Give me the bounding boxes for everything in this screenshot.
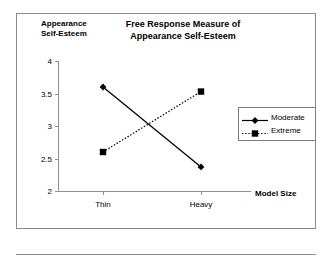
legend-item-extreme[interactable]: Extreme [241, 124, 312, 137]
series-plot [58, 61, 251, 192]
plot-area: 22.533.54 ThinHeavy [58, 61, 251, 191]
legend-item-moderate[interactable]: Moderate [241, 111, 312, 124]
x-tick-label: Thin [95, 200, 111, 209]
square-marker [252, 130, 258, 136]
x-axis-title: Model Size [255, 189, 296, 198]
y-tick-label: 3 [48, 122, 52, 131]
square-marker [198, 88, 204, 94]
diamond-marker [252, 117, 259, 124]
x-tick-label: Heavy [190, 200, 213, 209]
legend-label: Moderate [269, 113, 305, 122]
chart-frame: Appearance Self-Esteem Free Response Mea… [16, 13, 316, 229]
y-tick-label: 2.5 [41, 154, 52, 163]
y-tick-label: 4 [48, 57, 52, 66]
y-axis-title: Appearance Self-Esteem [41, 19, 111, 39]
square-marker [100, 149, 106, 155]
legend: ModerateExtreme [238, 107, 316, 141]
y-tick-label: 2 [48, 187, 52, 196]
y-tick-label: 3.5 [41, 89, 52, 98]
legend-label: Extreme [269, 126, 301, 135]
series-line [103, 87, 201, 167]
legend-swatch-icon [241, 125, 269, 136]
legend-swatch-icon [241, 112, 269, 123]
series-line [103, 92, 201, 152]
bottom-divider [16, 254, 316, 255]
chart-title: Free Response Measure of Appearance Self… [103, 18, 263, 42]
